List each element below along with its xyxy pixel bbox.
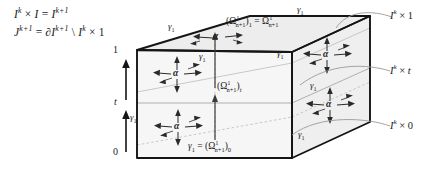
- alpha-label-top-face: α: [213, 31, 218, 41]
- axis-tick-1: 1: [113, 44, 118, 55]
- gamma-label-top-left: γ1: [168, 21, 175, 33]
- gamma-label-right-lower: γ1: [298, 129, 305, 141]
- side-label-i-k-times-t: Ik × t: [390, 63, 411, 76]
- axis-tick-0: 0: [113, 146, 118, 157]
- axis-tick-t: t: [114, 96, 117, 107]
- gamma-label-front-upper: γ1: [199, 51, 206, 63]
- alpha-label-right-lower: α: [326, 99, 331, 109]
- omega-label-top: (Ω1n+1)1 = Ω1n+1: [226, 14, 278, 28]
- formula-line-1: Ik × I = Ik+1: [14, 6, 69, 20]
- gamma-label-front-lower: γ1: [130, 112, 137, 124]
- figure-canvas: Ik × I = Ik+1 Jk+1 = ∂Ik+1 \ Ik × 1 1 t …: [0, 0, 439, 169]
- side-label-i-k-times-1: Ik × 1: [390, 8, 413, 21]
- t-axis-group: [122, 59, 130, 152]
- omega-label-middle: (Ω1n+1)t: [217, 79, 242, 93]
- formula-line-2: Jk+1 = ∂Ik+1 \ Ik × 1: [14, 24, 105, 38]
- gamma-label-right-mid: γ1: [310, 80, 317, 92]
- omega-label-bottom: γ1 = (Ω1n+1)0: [188, 139, 231, 153]
- gamma-label-right-upper: γ1: [277, 48, 284, 60]
- alpha-label-front-upper: α: [173, 68, 178, 78]
- alpha-label-front-lower: α: [174, 121, 179, 131]
- side-label-i-k-times-0: Ik × 0: [390, 118, 413, 131]
- gamma-label-top-right: γ1: [297, 4, 304, 16]
- alpha-label-right-upper: α: [323, 49, 328, 59]
